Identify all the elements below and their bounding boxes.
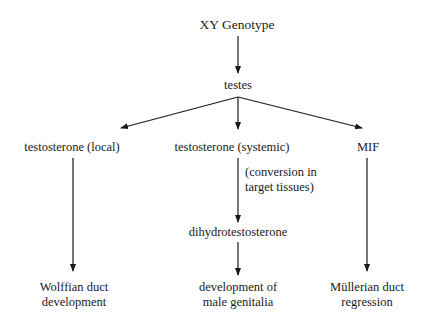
node-testosterone-local: testosterone (local) — [24, 140, 119, 155]
node-testosterone-systemic: testosterone (systemic) — [175, 140, 290, 155]
node-wolffian-duct-development: Wolffian duct development — [40, 280, 109, 310]
annotation-conversion: (conversion in target tissues) — [245, 165, 317, 195]
node-mullerian-duct-regression: Müllerian duct regression — [330, 280, 404, 310]
annotation-line-1: (conversion in — [245, 165, 317, 180]
node-dihydrotestosterone: dihydrotestosterone — [189, 225, 288, 240]
outcome-line-2: male genitalia — [199, 295, 277, 310]
outcome-line-1: Wolffian duct — [40, 280, 109, 295]
outcome-line-1: Müllerian duct — [330, 280, 404, 295]
outcome-line-1: development of — [199, 280, 277, 295]
annotation-line-2: target tissues) — [245, 180, 317, 195]
node-male-genitalia-development: development of male genitalia — [199, 280, 277, 310]
node-xy-genotype: XY Genotype — [200, 17, 275, 32]
arrows-layer — [0, 0, 425, 321]
arrow-testes-to-local — [121, 97, 238, 128]
node-mif: MIF — [357, 140, 379, 155]
outcome-line-2: development — [40, 295, 109, 310]
arrow-testes-to-mif — [238, 97, 362, 128]
outcome-line-2: regression — [330, 295, 404, 310]
node-testes: testes — [224, 78, 252, 93]
